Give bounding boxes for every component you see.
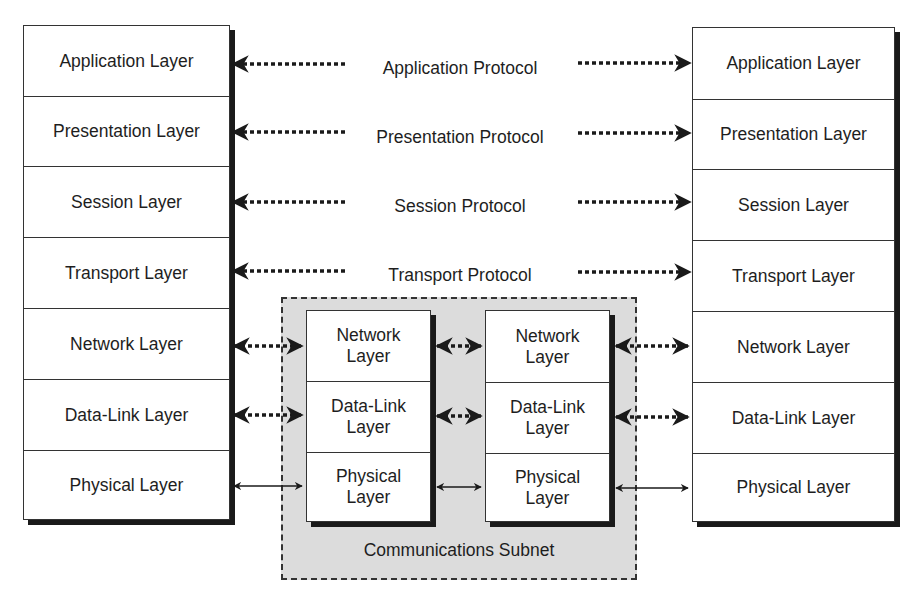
connection-arrows [0, 0, 916, 598]
